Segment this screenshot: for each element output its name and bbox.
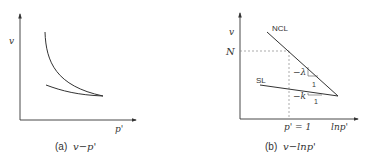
y-axis-label: v [229,27,234,37]
ncl-line [267,32,338,96]
lambda-run-label: 1 [312,81,316,88]
n-label: N [225,46,236,57]
caption-b-prefix: (b) [265,141,277,152]
panel-b: v N NCL SL −λ 1 −k 1 p' = 1 lnp' (b) v−l… [225,13,358,152]
y-axis-label: v [9,36,14,46]
panel-a: v p' (a) v−p' [9,14,136,152]
k-run-label: 1 [314,98,318,105]
lambda-slope-triangle [308,67,318,76]
caption-a-math: v−p' [73,141,96,152]
diagram-canvas: v p' (a) v−p' v N NCL SL −λ 1 −k 1 p' = … [0,0,366,162]
caption-b-math: v−lnp' [283,141,316,152]
caption-a-prefix: (a) [55,141,67,152]
p-one-label: p' = 1 [284,122,311,132]
ncl-label: NCL [272,24,289,33]
x-axis-label: lnp' [331,122,348,132]
k-slope-label: −k [293,91,306,101]
x-axis-label: p' [115,124,123,134]
sl-label: SL [256,76,266,85]
lambda-slope-label: −λ [293,67,306,77]
upper-curve [45,32,103,96]
